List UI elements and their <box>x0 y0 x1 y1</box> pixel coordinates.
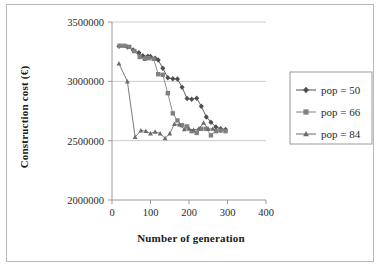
chart-figure: 2000000250000030000003500000 01002003004… <box>0 0 382 274</box>
data-point <box>118 44 122 48</box>
data-point <box>127 45 131 49</box>
y-axis-title: Construction cost (€) <box>18 37 30 197</box>
data-point <box>161 73 165 77</box>
legend-label: pop = 84 <box>321 128 361 140</box>
x-tick-label: 100 <box>143 207 159 218</box>
data-point <box>209 133 213 137</box>
plot-background <box>112 22 266 200</box>
x-axis-title: Number of generation <box>0 232 382 244</box>
y-tick-label: 3500000 <box>67 17 104 28</box>
legend-marker <box>303 109 308 114</box>
legend-label: pop = 50 <box>321 84 361 96</box>
chart-legend: pop = 50pop = 66pop = 84 <box>290 72 372 144</box>
chart-frame: 2000000250000030000003500000 01002003004… <box>6 4 374 262</box>
data-point <box>138 55 142 59</box>
x-tick-label: 300 <box>220 207 236 218</box>
x-tick-label: 200 <box>181 207 197 218</box>
data-point <box>151 57 155 61</box>
data-point <box>218 128 222 132</box>
data-point <box>166 91 170 95</box>
data-point <box>175 118 179 122</box>
y-tick-label: 3000000 <box>67 76 104 87</box>
legend-label: pop = 66 <box>321 106 361 118</box>
y-axis-tick-labels: 2000000250000030000003500000 <box>67 17 104 206</box>
data-point <box>146 56 150 60</box>
data-point <box>122 44 126 48</box>
x-axis-ticks <box>112 200 266 204</box>
data-point <box>156 72 160 76</box>
y-axis-ticks <box>108 22 112 200</box>
legend-items: pop = 50pop = 66pop = 84 <box>296 84 361 140</box>
line-chart-plot: 2000000250000030000003500000 01002003004… <box>7 5 373 261</box>
data-point <box>223 129 227 133</box>
y-tick-label: 2500000 <box>67 136 104 147</box>
x-axis-tick-labels: 0100200300400 <box>109 207 274 218</box>
x-tick-label: 400 <box>258 207 274 218</box>
data-point <box>143 57 147 61</box>
x-tick-label: 0 <box>109 207 114 218</box>
data-point <box>171 111 175 115</box>
y-tick-label: 2000000 <box>67 195 104 206</box>
data-point <box>132 49 136 53</box>
